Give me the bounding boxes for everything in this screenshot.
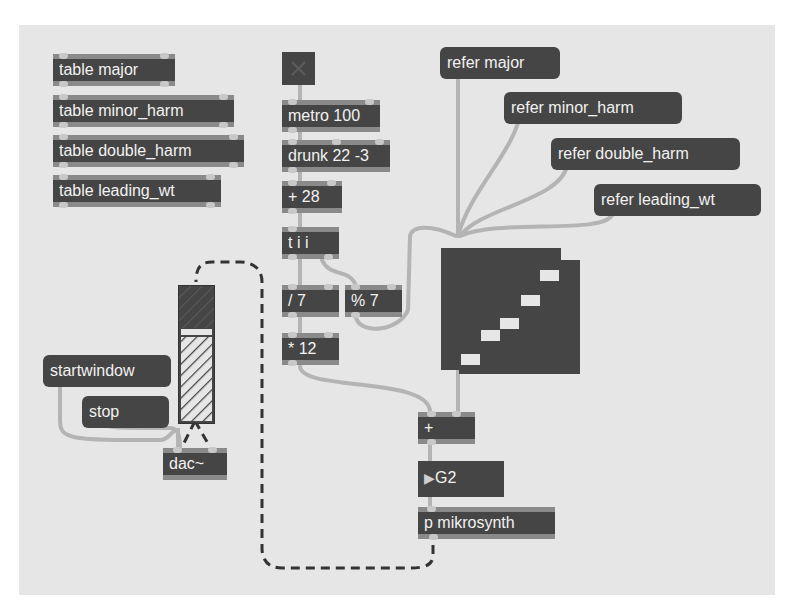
add-28-object[interactable]: + 28 [282, 181, 342, 213]
dac-object[interactable]: dac~ [163, 448, 227, 480]
object-label: table minor_harm [59, 102, 184, 119]
mikrosynth-subpatch[interactable]: p mikrosynth [418, 507, 555, 539]
table-leading-wt-object[interactable]: table leading_wt [53, 175, 221, 207]
multislider-bar [481, 330, 500, 341]
object-label: p mikrosynth [424, 514, 515, 531]
note-number-box[interactable]: ▶G2 [418, 461, 504, 497]
message-label: refer minor_harm [511, 99, 634, 116]
multislider-bar [500, 318, 519, 329]
object-label: t i i [288, 234, 308, 251]
number-value: G2 [435, 469, 456, 486]
stop-message[interactable]: stop [82, 396, 169, 428]
object-label: % 7 [351, 292, 379, 309]
modulo-7-object[interactable]: % 7 [345, 285, 402, 317]
trigger-object[interactable]: t i i [282, 227, 339, 259]
message-label: refer major [447, 54, 524, 71]
object-label: table double_harm [59, 142, 192, 159]
message-label: stop [89, 403, 119, 420]
object-label: + 28 [288, 188, 320, 205]
toggle-button[interactable] [282, 52, 315, 85]
gain-slider-hatching [179, 286, 214, 423]
divide-7-object[interactable]: / 7 [282, 285, 339, 317]
metro-object[interactable]: metro 100 [282, 100, 380, 132]
startwindow-message[interactable]: startwindow [43, 355, 171, 387]
refer-major-message[interactable]: refer major [440, 47, 560, 79]
drunk-object[interactable]: drunk 22 -3 [282, 140, 390, 172]
multislider-bar [540, 270, 559, 281]
message-label: refer leading_wt [601, 191, 715, 208]
object-label: table major [59, 61, 138, 78]
multiply-12-object[interactable]: * 12 [282, 333, 339, 365]
multislider-bar [521, 295, 540, 306]
object-label: drunk 22 -3 [288, 147, 369, 164]
multislider-bar [461, 354, 480, 365]
object-label: table leading_wt [59, 182, 175, 199]
table-major-object[interactable]: table major [53, 54, 175, 86]
refer-double-harm-message[interactable]: refer double_harm [551, 138, 740, 170]
object-label: dac~ [169, 455, 204, 472]
refer-leading-wt-message[interactable]: refer leading_wt [594, 184, 761, 216]
table-minor-harm-object[interactable]: table minor_harm [53, 95, 234, 127]
x-icon [282, 52, 315, 85]
object-label: * 12 [288, 340, 316, 357]
plus-object[interactable]: + [418, 412, 475, 444]
object-label: + [424, 419, 433, 436]
refer-minor-harm-message[interactable]: refer minor_harm [504, 92, 682, 124]
table-double-harm-object[interactable]: table double_harm [53, 135, 244, 167]
object-label: / 7 [288, 292, 306, 309]
multislider[interactable] [441, 248, 580, 374]
triangle-arrow-icon: ▶ [424, 470, 435, 486]
message-label: refer double_harm [558, 145, 689, 162]
gain-slider[interactable] [178, 285, 215, 424]
message-label: startwindow [50, 362, 134, 379]
object-label: metro 100 [288, 107, 360, 124]
